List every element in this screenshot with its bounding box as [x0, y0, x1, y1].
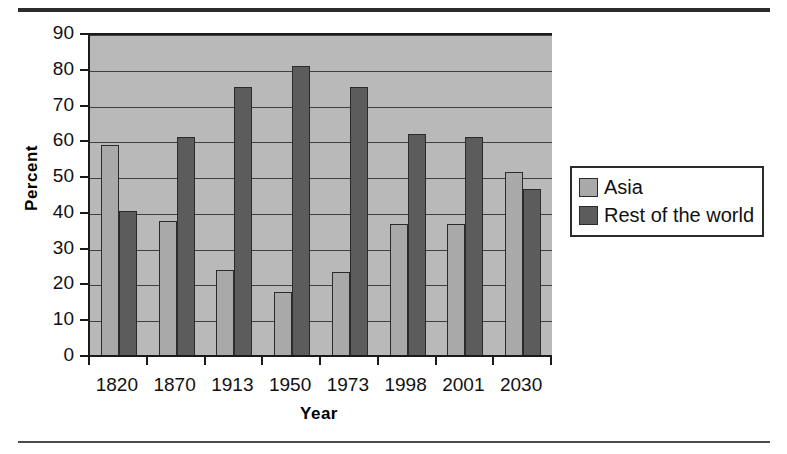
y-axis-tick-label: 50 [30, 166, 74, 185]
x-axis-tick-label: 1998 [376, 374, 436, 396]
y-axis-tick-label: 10 [30, 309, 74, 328]
x-axis-tick-label: 1950 [260, 374, 320, 396]
x-axis-tick-label: 2001 [433, 374, 493, 396]
bar-asia-1998[interactable] [390, 224, 408, 357]
y-axis-tick [80, 176, 88, 178]
bar-group [90, 35, 148, 357]
bar-asia-1950[interactable] [274, 292, 292, 357]
y-axis-tick [80, 69, 88, 71]
legend-item[interactable]: Rest of the world [579, 201, 754, 229]
y-axis-tick-label: 20 [30, 273, 74, 292]
legend-item-label: Rest of the world [604, 205, 754, 225]
y-axis-tick [80, 212, 88, 214]
bar-group [148, 35, 206, 357]
bar-asia-1870[interactable] [159, 221, 177, 357]
y-axis-tick-label: 40 [30, 202, 74, 221]
x-axis-title: Year [88, 404, 550, 424]
bar-rest-of-world-1973[interactable] [350, 87, 368, 357]
bar-group [321, 35, 379, 357]
bar-groups [90, 35, 552, 357]
x-axis-tick [377, 356, 379, 365]
y-axis-tick-label: 30 [30, 238, 74, 257]
y-axis-tick [80, 140, 88, 142]
bar-rest-of-world-1913[interactable] [234, 87, 252, 357]
rest-of-world-swatch-icon [579, 206, 598, 225]
x-axis-tick-label: 1820 [87, 374, 147, 396]
x-axis-tick [88, 356, 90, 365]
x-axis-tick [261, 356, 263, 365]
y-axis-tick [80, 248, 88, 250]
y-axis-tick-label: 70 [30, 95, 74, 114]
y-axis-tick [80, 33, 88, 35]
y-axis-tick [80, 283, 88, 285]
y-axis-tick [80, 319, 88, 321]
x-axis-tick [146, 356, 148, 365]
bar-asia-1973[interactable] [332, 272, 350, 357]
bar-rest-of-world-1998[interactable] [408, 134, 426, 357]
y-axis-tick-label: 80 [30, 59, 74, 78]
x-axis-tick [435, 356, 437, 365]
plot-area [88, 33, 552, 357]
bar-group [206, 35, 264, 357]
bar-asia-1913[interactable] [216, 270, 234, 357]
legend-item[interactable]: Asia [579, 173, 754, 201]
bar-asia-1820[interactable] [101, 145, 119, 357]
bar-group [437, 35, 495, 357]
y-axis-tick-label: 60 [30, 130, 74, 149]
legend-item-label: Asia [604, 177, 643, 197]
chart-page: Percent Year 0102030405060708090 1820187… [0, 0, 787, 454]
x-axis-tick [492, 356, 494, 365]
bar-asia-2001[interactable] [447, 224, 465, 357]
bar-rest-of-world-1870[interactable] [177, 137, 195, 357]
bar-group [263, 35, 321, 357]
x-axis-tick-label: 1870 [145, 374, 205, 396]
asia-swatch-icon [579, 178, 598, 197]
bar-asia-2030[interactable] [505, 172, 523, 357]
x-axis-tick [204, 356, 206, 365]
x-axis-tick [319, 356, 321, 365]
bar-chart: Percent Year 0102030405060708090 1820187… [0, 0, 787, 454]
x-axis-tick-label: 2030 [491, 374, 551, 396]
bar-group [494, 35, 552, 357]
y-axis-tick [80, 105, 88, 107]
chart-legend: AsiaRest of the world [570, 166, 764, 237]
x-axis-tick-label: 1973 [318, 374, 378, 396]
bar-rest-of-world-1820[interactable] [119, 211, 137, 357]
bar-group [379, 35, 437, 357]
bar-rest-of-world-2001[interactable] [465, 137, 483, 357]
bar-rest-of-world-2030[interactable] [523, 189, 541, 357]
x-axis-tick [550, 356, 552, 365]
bar-rest-of-world-1950[interactable] [292, 66, 310, 357]
y-axis-tick-label: 0 [30, 345, 74, 364]
x-axis-tick-label: 1913 [202, 374, 262, 396]
y-axis-tick-label: 90 [30, 23, 74, 42]
